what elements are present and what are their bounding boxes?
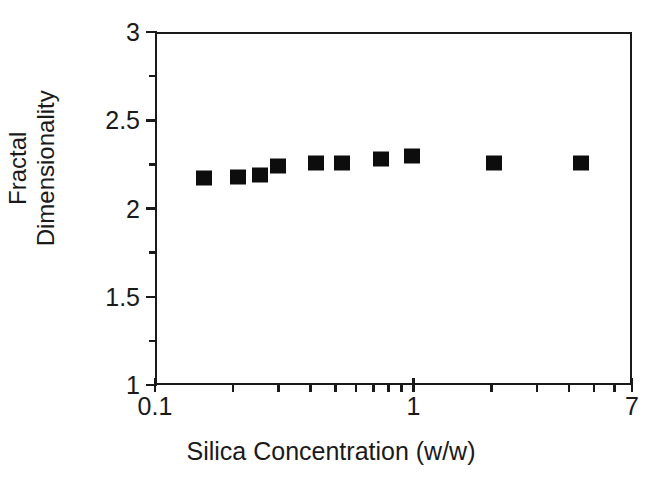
- y-axis-tick-label: 1: [80, 371, 140, 400]
- data-point-marker: [373, 152, 389, 167]
- data-point-marker: [230, 169, 246, 184]
- x-axis-minor-tick: [568, 383, 571, 392]
- x-axis-minor-tick: [593, 383, 596, 392]
- x-axis-minor-tick: [334, 383, 337, 392]
- plot-data-area: [155, 32, 632, 385]
- x-axis-minor-tick: [309, 383, 312, 392]
- y-axis-tick-label: 3: [80, 18, 140, 47]
- y-axis-tick-label: 2: [80, 194, 140, 223]
- y-axis-tick-labels: 11.522.53: [68, 0, 140, 483]
- data-point-marker: [486, 155, 502, 170]
- data-point-marker: [573, 155, 589, 170]
- x-axis-minor-tick: [387, 383, 390, 392]
- y-axis-title-line-1: Fractal: [4, 68, 32, 268]
- x-axis-major-tick: [631, 378, 634, 392]
- x-axis-minor-tick: [355, 383, 358, 392]
- figure-canvas: 11.522.53 0.117 Fractal Dimensionality S…: [0, 0, 662, 483]
- y-axis-major-tick: [146, 31, 157, 34]
- y-axis-minor-tick: [149, 251, 157, 254]
- data-point-marker: [404, 148, 420, 163]
- x-axis-minor-tick: [232, 383, 235, 392]
- y-axis-tick-label: 2.5: [80, 106, 140, 135]
- y-axis-major-tick: [146, 119, 157, 122]
- data-point-marker: [308, 155, 324, 170]
- data-point-marker: [334, 155, 350, 170]
- y-axis-title: Fractal Dimensionality: [4, 68, 61, 268]
- y-axis-title-line-2: Dimensionality: [32, 68, 60, 268]
- x-axis-tick-label: 0.1: [138, 392, 173, 421]
- y-axis-major-tick: [146, 296, 157, 299]
- y-axis-major-tick: [146, 207, 157, 210]
- x-axis-tick-label: 7: [625, 392, 639, 421]
- y-axis-tick-label: 1.5: [80, 282, 140, 311]
- x-axis-minor-tick: [277, 383, 280, 392]
- x-axis-tick-label: 1: [407, 392, 421, 421]
- x-axis-minor-tick: [536, 383, 539, 392]
- x-axis-minor-tick: [613, 383, 616, 392]
- data-point-marker: [196, 171, 212, 186]
- y-axis-minor-tick: [149, 340, 157, 343]
- x-axis-minor-tick: [400, 383, 403, 392]
- x-axis-title: Silica Concentration (w/w): [0, 437, 662, 466]
- x-axis-minor-tick: [490, 383, 493, 392]
- x-axis-minor-tick: [372, 383, 375, 392]
- x-axis-major-tick: [154, 378, 157, 392]
- y-axis-minor-tick: [149, 163, 157, 166]
- data-point-marker: [270, 159, 286, 174]
- y-axis-minor-tick: [149, 75, 157, 78]
- data-point-marker: [252, 167, 268, 182]
- x-axis-major-tick: [412, 378, 415, 392]
